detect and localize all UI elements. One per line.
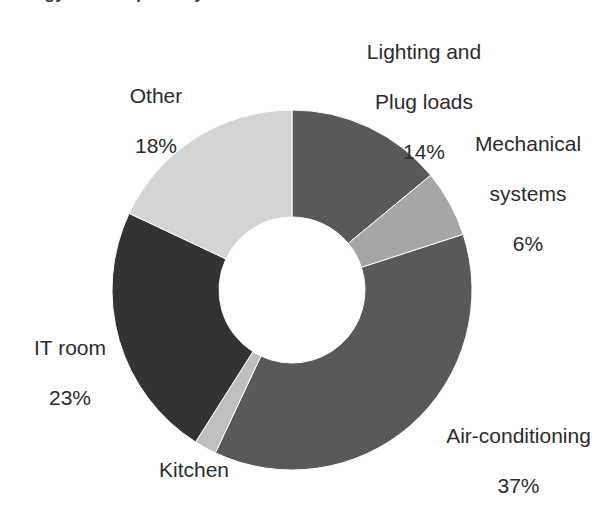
slice-label-percent: 6% bbox=[446, 231, 610, 256]
slice-label-percent: 23% bbox=[2, 385, 138, 410]
slice-label-other: Other 18% bbox=[92, 58, 220, 183]
slice-label-percent: 18% bbox=[92, 133, 220, 158]
slice-label-name: Mechanical bbox=[446, 131, 610, 156]
slice-label-name: Other bbox=[92, 83, 220, 108]
slice-label-percent: 37% bbox=[424, 473, 613, 498]
slice-label-mechanical-systems: Mechanical systems 6% bbox=[446, 106, 610, 281]
slice-label-kitchen: Kitchen 2% bbox=[118, 432, 270, 506]
slice-label-name: Air-conditioning bbox=[424, 423, 613, 448]
slice-label-it-room: IT room 23% bbox=[2, 310, 138, 435]
slice-label-name-2: systems bbox=[446, 181, 610, 206]
slice-label-name: IT room bbox=[2, 335, 138, 360]
slice-label-air-conditioning: Air-conditioning 37% bbox=[424, 398, 613, 506]
slice-label-name: Lighting and bbox=[334, 39, 514, 64]
slice-label-name: Kitchen bbox=[118, 457, 270, 482]
chart-page: Energy consumption by end use Lighting a… bbox=[0, 0, 613, 506]
